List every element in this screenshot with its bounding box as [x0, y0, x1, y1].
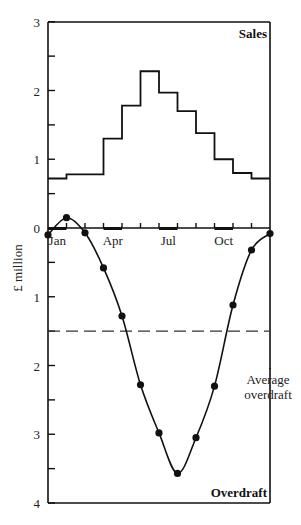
y-tick-label: 3	[34, 15, 41, 30]
overdraft-data-point	[266, 230, 273, 237]
sales-step-line	[48, 71, 270, 178]
overdraft-data-point	[174, 470, 181, 477]
average-overdraft-label-line2: overdraft	[244, 387, 292, 402]
y-tick-label: 2	[34, 84, 41, 99]
overdraft-data-point	[63, 214, 70, 221]
y-tick-label: 0	[34, 221, 41, 236]
month-label: Apr	[103, 233, 124, 248]
sales-overdraft-chart: 32101234 JanAprJulOct Sales Overdraft Av…	[0, 0, 301, 525]
month-label: Jul	[161, 233, 177, 248]
y-tick-labels: 32101234	[34, 15, 41, 511]
sales-title: Sales	[239, 26, 267, 41]
overdraft-data-point	[248, 246, 255, 253]
overdraft-data-point	[155, 429, 162, 436]
overdraft-title: Overdraft	[211, 485, 268, 500]
overdraft-data-point	[229, 301, 236, 308]
overdraft-data-point	[100, 264, 107, 271]
y-ticks	[48, 22, 55, 503]
overdraft-points	[44, 214, 273, 477]
y-tick-label: 2	[34, 359, 41, 374]
y-axis-label: £ million	[10, 244, 25, 292]
average-overdraft-label-line1: Average	[246, 372, 289, 387]
y-tick-label: 4	[34, 496, 41, 511]
overdraft-data-point	[211, 383, 218, 390]
month-label: Oct	[214, 233, 233, 248]
overdraft-data-point	[44, 231, 51, 238]
overdraft-data-point	[192, 434, 199, 441]
overdraft-data-point	[137, 381, 144, 388]
y-tick-label: 1	[34, 290, 41, 305]
y-tick-label: 1	[34, 152, 41, 167]
overdraft-data-point	[81, 229, 88, 236]
month-labels: JanAprJulOct	[49, 233, 234, 248]
y-tick-label: 3	[34, 427, 41, 442]
overdraft-data-point	[118, 312, 125, 319]
